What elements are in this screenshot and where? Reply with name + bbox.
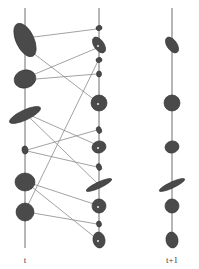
correspondence-link <box>33 213 97 224</box>
correspondence-diagram: t t+1 <box>0 0 199 269</box>
left-ellipse <box>21 146 28 155</box>
correspondence-links <box>27 29 98 239</box>
correspondence-link <box>30 118 97 183</box>
middle-ellipse <box>97 71 102 77</box>
middle-ellipse <box>91 139 108 154</box>
right-ellipse <box>164 198 180 214</box>
middle-ellipse <box>95 25 102 32</box>
axis-label-t-plus-1: t+1 <box>166 255 178 265</box>
right-ellipse <box>164 95 180 111</box>
correspondence-link <box>27 151 97 167</box>
left-ellipse <box>9 20 41 60</box>
right-ellipse <box>163 35 182 55</box>
middle-ellipse <box>95 126 102 134</box>
left-ellipse <box>12 67 38 90</box>
correspondence-link <box>33 184 97 205</box>
correspondence-link <box>34 29 97 37</box>
correspondence-link <box>32 187 97 239</box>
right-ellipse <box>165 231 180 249</box>
left-ellipse <box>15 173 35 191</box>
middle-ellipse <box>92 231 107 249</box>
left-ellipse <box>16 203 34 221</box>
middle-ellipse <box>91 95 107 111</box>
middle-ellipse <box>90 35 109 55</box>
correspondence-link <box>35 48 97 74</box>
axis-label-t: t <box>24 255 27 265</box>
right-ellipse <box>164 139 181 154</box>
gaussian-ellipses <box>7 20 185 249</box>
middle-ellipse <box>91 198 107 214</box>
middle-ellipse <box>95 57 102 64</box>
correspondence-link <box>32 116 97 145</box>
middle-ellipse <box>95 163 102 171</box>
middle-ellipse <box>96 221 102 228</box>
